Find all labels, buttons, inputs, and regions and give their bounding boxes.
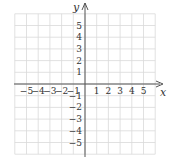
x-tick-label: 3 <box>117 86 123 96</box>
coordinate-plane: x y −5−4−3−2−112345 54321−1−2−3−4−5 <box>0 0 170 160</box>
x-tick-labels: −5−4−3−2−112345 <box>20 86 147 96</box>
y-tick-label: 4 <box>76 32 82 42</box>
y-tick-label: −4 <box>69 126 83 136</box>
x-tick-label: 1 <box>94 86 100 96</box>
y-axis-label: y <box>72 1 80 14</box>
y-tick-label: 3 <box>76 44 82 54</box>
y-tick-label: −5 <box>69 138 83 148</box>
y-tick-label: −1 <box>69 91 82 101</box>
x-tick-label: 5 <box>141 86 147 96</box>
x-tick-label: 2 <box>106 86 112 96</box>
y-tick-label: 1 <box>76 67 82 77</box>
x-axis-label: x <box>160 86 167 99</box>
y-tick-label: −3 <box>69 114 83 124</box>
axes <box>14 3 163 157</box>
y-tick-label: −2 <box>69 102 82 112</box>
x-tick-label: 4 <box>129 86 135 96</box>
y-tick-label: 2 <box>76 56 82 66</box>
y-tick-label: 5 <box>76 21 82 31</box>
